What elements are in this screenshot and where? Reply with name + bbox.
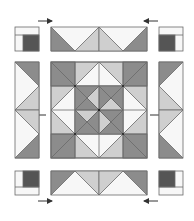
border-strip-bottom xyxy=(51,171,147,195)
corner-unit-top-left xyxy=(15,27,39,51)
center-block xyxy=(51,62,147,158)
corner-unit-bottom-right xyxy=(159,171,183,195)
border-strip-left xyxy=(15,62,39,158)
corner-unit-bottom-left xyxy=(15,171,39,195)
border-strip-top xyxy=(51,27,147,51)
border-strip-right xyxy=(159,62,183,158)
quilt-diagram xyxy=(0,0,194,221)
corner-unit-top-right xyxy=(159,27,183,51)
